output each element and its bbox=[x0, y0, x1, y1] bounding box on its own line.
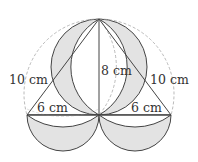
left-base-label: 6 cm bbox=[37, 100, 68, 115]
right-slant-label: 10 cm bbox=[150, 72, 189, 87]
figure-canvas: 10 cm 10 cm 8 cm 6 cm 6 cm bbox=[0, 0, 198, 162]
geometry-figure: 10 cm 10 cm 8 cm 6 cm 6 cm bbox=[0, 0, 198, 162]
right-base-label: 6 cm bbox=[131, 100, 162, 115]
left-slant-label: 10 cm bbox=[9, 72, 48, 87]
vertical-label: 8 cm bbox=[101, 63, 132, 78]
